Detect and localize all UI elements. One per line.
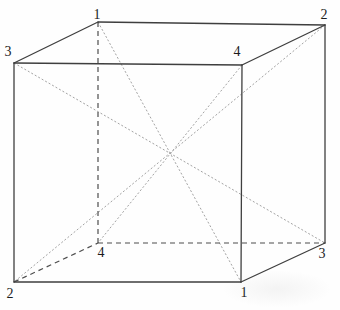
edge-front-right-vertical bbox=[241, 65, 242, 282]
vertex-label-back-bottom-right: 3 bbox=[319, 246, 326, 261]
edge-left-top-depth bbox=[14, 22, 98, 63]
diagonal-4-4 bbox=[98, 65, 242, 243]
edge-front-top bbox=[14, 63, 242, 65]
vertex-label-front-top-left: 3 bbox=[5, 44, 12, 59]
vertex-label-back-top-right: 2 bbox=[321, 7, 328, 22]
vertex-label-front-top-right: 4 bbox=[234, 44, 241, 59]
vertex-label-back-bottom-left: 4 bbox=[98, 245, 105, 260]
edge-left-bottom-depth bbox=[14, 243, 98, 282]
cube-diagram: 12342143 bbox=[0, 0, 340, 310]
vertex-label-back-top-left: 1 bbox=[94, 7, 101, 22]
edge-right-bottom-depth bbox=[241, 243, 325, 282]
vertex-label-front-bottom-left: 2 bbox=[7, 286, 14, 301]
vertex-labels: 12342143 bbox=[5, 7, 328, 301]
edge-back-top bbox=[98, 22, 325, 25]
vertex-label-front-bottom-right: 1 bbox=[241, 285, 248, 300]
cube-wireframe-svg: 12342143 bbox=[0, 0, 340, 310]
